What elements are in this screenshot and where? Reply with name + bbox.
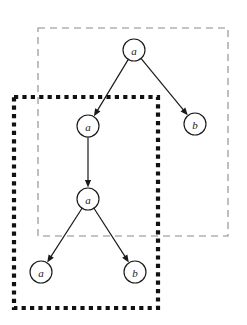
edge-root-to-level1-b — [141, 58, 188, 115]
node-level1-b: b — [184, 113, 206, 135]
edge-root-to-level1-a — [94, 59, 128, 116]
node-level2-a: a — [77, 188, 99, 210]
edge-level2-a-to-leaf-a — [47, 208, 82, 262]
node-root-a: a — [123, 39, 145, 61]
node-root-a-label: a — [131, 45, 137, 57]
tree-edges-layer — [47, 58, 188, 262]
node-level1-a-label: a — [85, 121, 91, 133]
node-leaf-b: b — [124, 261, 146, 283]
node-level2-a-label: a — [85, 194, 91, 206]
figure-canvas: aabaab — [0, 0, 247, 325]
parse-tree-diagram: aabaab — [0, 0, 247, 325]
node-level1-b-label: b — [192, 119, 198, 131]
node-leaf-a: a — [30, 261, 52, 283]
edge-level1-a-to-level2-a — [85, 137, 91, 188]
node-level1-a: a — [77, 115, 99, 137]
node-leaf-b-label: b — [132, 267, 138, 279]
node-leaf-a-label: a — [38, 267, 44, 279]
edge-level2-a-to-leaf-b — [94, 208, 129, 262]
